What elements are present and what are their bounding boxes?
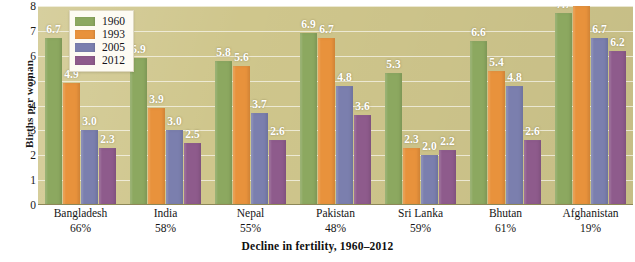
x-category-name: Bhutan (463, 207, 548, 219)
bar-value-label: 2.5 (185, 128, 199, 140)
y-axis-ticks: 012345678 (16, 4, 36, 207)
legend-swatch-icon (75, 17, 95, 26)
bar-afghanistan-1960: 7.7 (555, 13, 572, 205)
bar-value-label: 3.6 (355, 100, 369, 112)
x-category-nepal: Nepal55% (208, 207, 293, 234)
bar-value-label: 3.9 (149, 93, 163, 105)
bar-india-1993: 3.9 (148, 108, 165, 205)
bar-value-label: 3.0 (82, 115, 96, 127)
bar-pakistan-1960: 6.9 (300, 33, 317, 205)
x-axis-line (38, 204, 633, 205)
y-tick-label: 4 (16, 100, 36, 112)
bar-india-1960: 5.9 (130, 58, 147, 205)
bar-value-label: 5.6 (234, 51, 248, 63)
fertility-bar-chart: Births per woman 012345678 6.74.93.02.35… (0, 0, 635, 262)
bar-value-label: 6.9 (301, 18, 315, 30)
bar-group: 6.96.74.83.6 (300, 6, 371, 205)
bar-value-label: 5.8 (216, 46, 230, 58)
legend-item-1993[interactable]: 1993 (75, 28, 125, 41)
bar-bangladesh-2012: 2.3 (99, 148, 116, 205)
bar-value-label: 4.8 (337, 71, 351, 83)
x-category-name: Bangladesh (38, 207, 123, 219)
x-category-bhutan: Bhutan61% (463, 207, 548, 234)
legend-label: 2005 (102, 41, 125, 54)
bar-value-label: 2.3 (100, 133, 114, 145)
legend-swatch-icon (75, 43, 95, 52)
x-category-percent: 58% (123, 222, 208, 234)
x-category-name: India (123, 207, 208, 219)
x-category-percent: 55% (208, 222, 293, 234)
x-axis-category-labels: Bangladesh66%India58%Nepal55%Pakistan48%… (38, 207, 633, 241)
x-category-name: Afghanistan (548, 207, 633, 219)
bar-sri-lanka-1993: 2.3 (403, 148, 420, 205)
bar-group: 7.78.06.76.2 (555, 6, 626, 205)
bar-nepal-2005: 3.7 (251, 113, 268, 205)
bar-afghanistan-2012: 6.2 (609, 51, 626, 205)
bar-pakistan-2005: 4.8 (336, 86, 353, 205)
bar-india-2005: 3.0 (166, 130, 183, 205)
bar-value-label: 2.2 (440, 135, 454, 147)
y-tick-label: 1 (16, 174, 36, 186)
x-category-percent: 48% (293, 222, 378, 234)
y-tick-label: 5 (16, 75, 36, 87)
chart-legend: 1960199320052012 (69, 10, 134, 72)
x-category-india: India58% (123, 207, 208, 234)
bar-bhutan-1960: 6.6 (470, 41, 487, 205)
bar-value-label: 6.7 (592, 23, 606, 35)
bar-group: 5.32.32.02.2 (385, 6, 456, 205)
bar-value-label: 3.0 (167, 115, 181, 127)
bar-nepal-1960: 5.8 (215, 61, 232, 205)
legend-item-1960[interactable]: 1960 (75, 15, 125, 28)
y-tick-label: 3 (16, 124, 36, 136)
x-axis-title: Decline in fertility, 1960–2012 (0, 240, 635, 252)
legend-label: 1993 (102, 28, 125, 41)
bar-afghanistan-2005: 6.7 (591, 38, 608, 205)
bar-value-label: 5.3 (386, 58, 400, 70)
bar-nepal-1993: 5.6 (233, 66, 250, 205)
y-tick-label: 7 (16, 25, 36, 37)
bar-value-label: 6.2 (610, 36, 624, 48)
bar-india-2012: 2.5 (184, 143, 201, 205)
bar-bhutan-2005: 4.8 (506, 86, 523, 205)
x-category-name: Pakistan (293, 207, 378, 219)
legend-swatch-icon (75, 56, 95, 65)
legend-item-2005[interactable]: 2005 (75, 41, 125, 54)
bar-afghanistan-1993: 8.0 (573, 6, 590, 205)
bar-value-label: 2.0 (422, 140, 436, 152)
bar-bangladesh-1960: 6.7 (45, 38, 62, 205)
bar-value-label: 6.6 (471, 26, 485, 38)
bar-bangladesh-1993: 4.9 (63, 83, 80, 205)
legend-item-2012[interactable]: 2012 (75, 54, 125, 67)
bar-group: 6.65.44.82.6 (470, 6, 541, 205)
bar-pakistan-1993: 6.7 (318, 38, 335, 205)
bar-value-label: 6.7 (46, 23, 60, 35)
bar-sri-lanka-2012: 2.2 (439, 150, 456, 205)
bar-value-label: 2.6 (525, 125, 539, 137)
bar-value-label: 4.8 (507, 71, 521, 83)
bar-bangladesh-2005: 3.0 (81, 130, 98, 205)
y-tick-label: 6 (16, 50, 36, 62)
bar-value-label: 2.3 (404, 133, 418, 145)
bar-group: 5.85.63.72.6 (215, 6, 286, 205)
bar-value-label: 6.7 (319, 23, 333, 35)
bar-value-label: 2.6 (270, 125, 284, 137)
y-tick-label: 0 (16, 199, 36, 211)
bar-bhutan-2012: 2.6 (524, 140, 541, 205)
x-category-pakistan: Pakistan48% (293, 207, 378, 234)
legend-label: 2012 (102, 54, 125, 67)
bar-sri-lanka-1960: 5.3 (385, 73, 402, 205)
bar-sri-lanka-2005: 2.0 (421, 155, 438, 205)
bar-value-label: 7.7 (556, 6, 570, 10)
x-category-sri-lanka: Sri Lanka59% (378, 207, 463, 234)
y-tick-label: 8 (16, 0, 36, 12)
x-category-percent: 19% (548, 222, 633, 234)
bar-value-label: 3.7 (252, 98, 266, 110)
x-category-percent: 59% (378, 222, 463, 234)
legend-swatch-icon (75, 30, 95, 39)
bar-bhutan-1993: 5.4 (488, 71, 505, 205)
y-tick-label: 2 (16, 149, 36, 161)
x-category-percent: 66% (38, 222, 123, 234)
bar-pakistan-2012: 3.6 (354, 115, 371, 205)
x-category-name: Sri Lanka (378, 207, 463, 219)
legend-label: 1960 (102, 15, 125, 28)
